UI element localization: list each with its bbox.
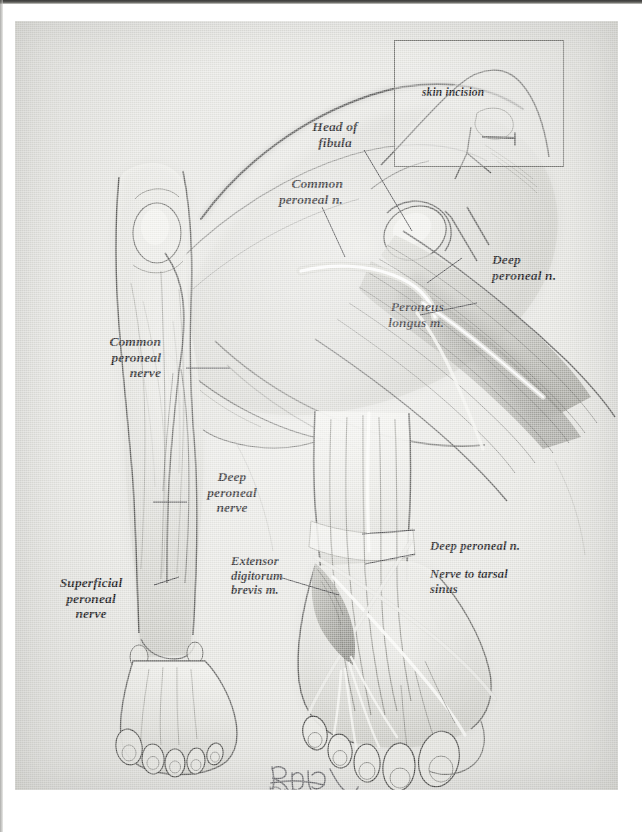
label-superficial-peroneal-nerve: Superficial peroneal nerve [39,575,143,622]
artist-signature: ©2002 [268,757,364,790]
label-common-peroneal-n: Common peroneal n. [237,176,343,207]
label-extensor-digitorum-brevis-m: Extensor digitorum brevis m. [231,554,327,598]
skin-incision-inset-frame [394,40,564,167]
label-common-peroneal-nerve: Common peroneal nerve [51,334,161,381]
label-skin-incision: skin incision [422,86,484,99]
foot-dissection-group [279,411,495,790]
anatomy-plate: skin incision Head of fibula Common pero… [15,21,618,790]
label-peroneus-longus-m: Peroneus longus m. [352,299,444,330]
label-nerve-to-tarsal-sinus: Nerve to tarsal sinus [430,567,570,596]
illustration-page: skin incision Head of fibula Common pero… [0,0,642,832]
label-deep-peroneal-n: Deep peroneal n. [492,252,602,283]
label-head-of-fibula: Head of fibula [292,119,378,150]
label-deep-peroneal-n-foot: Deep peroneal n. [430,539,590,554]
scan-top-border [0,0,642,4]
scan-left-edge [0,0,3,832]
label-deep-peroneal-nerve: Deep peroneal nerve [193,469,271,516]
signature-scrawl [268,757,364,790]
